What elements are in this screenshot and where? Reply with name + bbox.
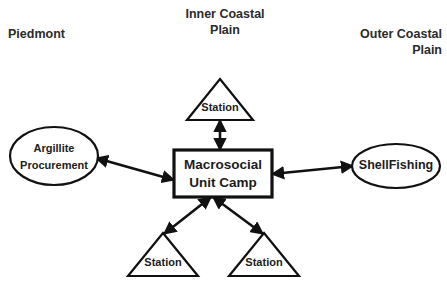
node-macrosocial-unit-camp-label-line2: Unit Camp xyxy=(189,175,257,190)
connector-box-to-argillite-procurement xyxy=(96,158,174,180)
triangle-shape xyxy=(187,79,253,120)
node-bottom-left-station-label: Station xyxy=(144,256,182,268)
connector-box-to-bottom-right-station xyxy=(213,197,263,234)
node-macrosocial-unit-camp-label-line1: Macrosocial xyxy=(184,157,262,172)
node-argillite-procurement[interactable]: Argillite Procurement xyxy=(10,127,98,185)
node-bottom-left-station[interactable]: Station xyxy=(128,233,198,276)
node-shellfishing-label: ShellFishing xyxy=(359,158,433,172)
node-bottom-right-station-label: Station xyxy=(245,256,283,268)
diagram-graphics: Station Station Station Argillite Procur… xyxy=(0,0,447,281)
ellipse-shape xyxy=(10,127,98,185)
node-macrosocial-unit-camp[interactable]: Macrosocial Unit Camp xyxy=(174,150,272,197)
connector-box-to-bottom-left-station xyxy=(164,197,211,234)
node-argillite-procurement-label-line2: Procurement xyxy=(20,159,88,171)
node-top-station[interactable]: Station xyxy=(187,79,253,120)
connector-box-to-shellfishing xyxy=(272,166,353,174)
triangle-shape xyxy=(229,233,299,276)
node-top-station-label: Station xyxy=(201,101,239,113)
triangle-shape xyxy=(128,233,198,276)
node-argillite-procurement-label-line1: Argillite xyxy=(34,142,75,154)
node-bottom-right-station[interactable]: Station xyxy=(229,233,299,276)
diagram-canvas: Piedmont Inner Coastal Plain Outer Coast… xyxy=(0,0,447,281)
node-shellfishing[interactable]: ShellFishing xyxy=(352,144,440,188)
